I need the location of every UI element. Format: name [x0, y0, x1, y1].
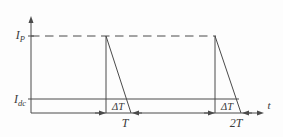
- delta-t-label-2: ΔT: [220, 101, 234, 112]
- idc-level-label: Idc: [13, 92, 26, 108]
- ip-level-label: IP: [15, 28, 25, 44]
- period-2t-label: 2T: [230, 116, 244, 130]
- waveform-figure: IP Idc ΔT ΔT T 2T t: [0, 0, 283, 137]
- delta-t-label-1: ΔT: [111, 101, 125, 112]
- time-axis-label: t: [267, 99, 271, 111]
- period-t-label: T: [122, 116, 130, 130]
- waveform-svg: IP Idc ΔT ΔT T 2T t: [0, 0, 283, 137]
